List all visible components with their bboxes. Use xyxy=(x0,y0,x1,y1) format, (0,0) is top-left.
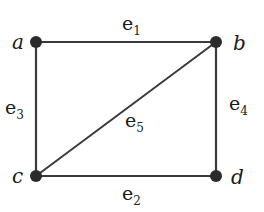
edge-label-e4: e4 xyxy=(229,92,248,118)
graph-diagram: a b c d e1 e2 e3 e4 e5 xyxy=(0,0,264,212)
node-c xyxy=(30,170,42,182)
graph-svg: a b c d e1 e2 e3 e4 e5 xyxy=(0,0,264,212)
edge-label-e2: e2 xyxy=(122,182,141,208)
node-label-b: b xyxy=(233,31,246,55)
node-a xyxy=(30,36,42,48)
edge-label-e5: e5 xyxy=(125,109,144,135)
node-d xyxy=(210,170,222,182)
edge-label-e1: e1 xyxy=(122,12,141,38)
node-label-a: a xyxy=(12,30,24,54)
node-label-d: d xyxy=(231,165,244,189)
edge-label-e3: e3 xyxy=(5,96,24,122)
node-label-c: c xyxy=(12,164,23,188)
node-b xyxy=(210,36,222,48)
